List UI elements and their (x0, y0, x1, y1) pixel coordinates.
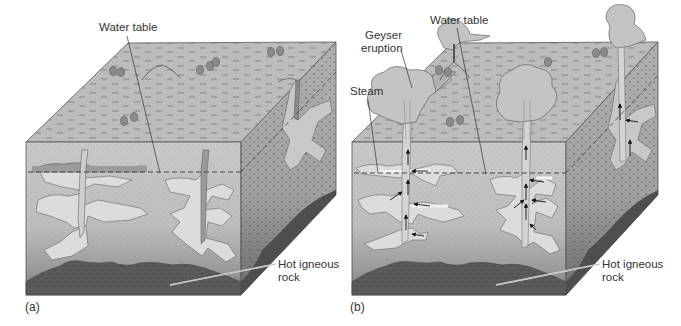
panel-label-b: (b) (350, 300, 365, 314)
geyser-eruption-label-line2: eruption (361, 42, 403, 54)
hot-igneous-rock-label-line2: rock (278, 271, 300, 283)
panel-a-before-eruption: Water table Hot igneous rock (a) (0, 0, 340, 326)
panel-b-geyser-eruption: Geyser eruption Water table Steam Hot ig… (340, 0, 680, 326)
geyser-eruption-label-line1: Geyser (365, 29, 402, 41)
hot-igneous-rock-label-line1: Hot igneous (602, 258, 664, 270)
water-table-label: Water table (430, 14, 488, 26)
steam-label: Steam (350, 85, 383, 97)
block-diagram-b: Geyser eruption Water table Steam Hot ig… (340, 0, 681, 326)
hot-igneous-rock-label-line1: Hot igneous (278, 258, 340, 270)
water-table-label: Water table (99, 21, 157, 33)
hot-igneous-rock-label-line2: rock (602, 271, 624, 283)
block-diagram-a: Water table Hot igneous rock (a) (0, 0, 340, 326)
panel-label-a: (a) (25, 300, 40, 314)
